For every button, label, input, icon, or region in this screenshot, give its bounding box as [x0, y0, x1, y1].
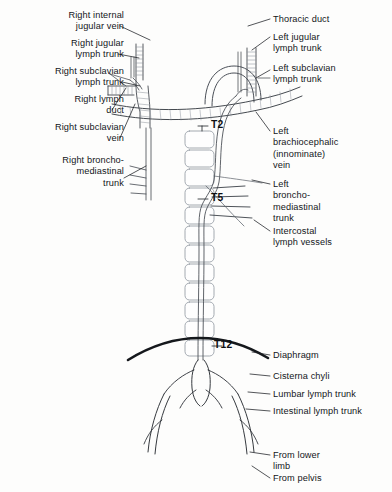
left-brachiocephalic-vein-art — [112, 87, 302, 120]
label-left-broncho-mediastinal-trunk: Left broncho- mediastinal trunk — [273, 179, 389, 224]
pelvic-lymph-branches-art — [144, 420, 258, 444]
label-intestinal-lymph-trunk: Intestinal lymph trunk — [273, 406, 389, 417]
label-left-jugular-lymph-trunk: Left jugular lymph trunk — [273, 32, 389, 55]
label-cisterna-chyli: Cisterna chyli — [273, 371, 389, 382]
label-left-subclavian-lymph-trunk: Left subclavian lymph trunk — [273, 63, 389, 86]
right-jugular-lymph-trunk-art — [131, 57, 134, 78]
label-right-subclavian-lymph-trunk: Right subclavian lymph trunk — [4, 66, 124, 89]
lumbar-lymph-trunk-art — [164, 370, 238, 394]
label-lumbar-lymph-trunk: Lumbar lymph trunk — [273, 389, 389, 400]
label-from-pelvis: From pelvis — [273, 473, 389, 484]
vertebral-column — [185, 131, 214, 356]
intestinal-lymph-trunk-art — [180, 390, 222, 408]
right-internal-jugular-vein-art — [136, 44, 143, 84]
label-thoracic-duct: Thoracic duct — [273, 14, 389, 25]
cisterna-chyli-art — [192, 360, 211, 406]
label-left-brachiocephalic-vein: Left brachiocephalic (innominate) vein — [273, 126, 389, 171]
label-from-lower-limb: From lower limb — [273, 450, 389, 473]
label-right-jugular-lymph-trunk: Right jugular lymph trunk — [6, 38, 124, 61]
left-broncho-mediastinal-trunk-art — [214, 176, 262, 183]
label-right-internal-jugular-vein: Right internal jugular vein — [6, 10, 124, 33]
left-jugular-lymph-trunk-art — [238, 52, 241, 92]
anatomy-diagram: Right internal jugular vein Right jugula… — [0, 0, 392, 492]
vertebral-level-t5: T5 — [211, 192, 223, 203]
label-right-broncho-mediastinal-trunk: Right broncho- mediastinal trunk — [6, 155, 124, 189]
left-internal-jugular-vein-art — [247, 48, 256, 96]
vertebral-level-t2: T2 — [211, 119, 223, 130]
label-right-lymph-duct: Right lymph duct — [6, 94, 124, 117]
label-right-subclavian-vein: Right subclavian vein — [4, 122, 124, 145]
iliac-lymph-trunks-art — [148, 394, 254, 454]
vertebral-level-t12: T12 — [214, 339, 232, 350]
right-brachiocephalic-vein-art — [136, 84, 150, 128]
right-broncho-mediastinal-trunk-art — [130, 128, 151, 200]
label-diaphragm: Diaphragm — [273, 350, 389, 361]
label-intercostal-lymph-vessels: Intercostal lymph vessels — [273, 226, 389, 249]
